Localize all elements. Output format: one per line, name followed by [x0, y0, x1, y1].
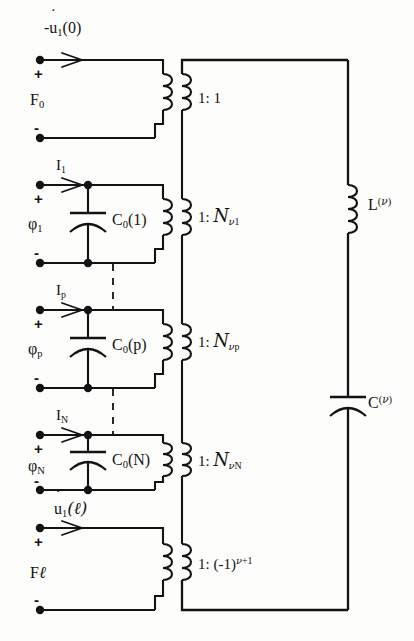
- port-section-phip: [36, 303, 172, 392]
- polarity-minus-phi1: -: [34, 245, 39, 260]
- inductor-coil: [182, 544, 191, 580]
- box-bottom-wire: [182, 580, 348, 610]
- port-label-phip: φp: [28, 341, 43, 360]
- port-section-phi1: [36, 178, 172, 267]
- turns-ratio-2: 1: Nν1: [198, 208, 240, 227]
- coil-lead: [155, 528, 163, 544]
- coil-lead: [155, 110, 163, 138]
- polarity-minus-f0: -: [34, 120, 39, 135]
- polarity-minus-fl: -: [34, 592, 39, 607]
- current-label-i1: I1: [56, 158, 66, 175]
- polarity-plus-phiN: +: [34, 441, 43, 456]
- inductor-coil: [163, 324, 172, 360]
- coil-lead: [155, 310, 163, 324]
- inductor-coil: [348, 185, 357, 233]
- inductor-coil: [182, 199, 191, 235]
- polarity-plus-phi1: +: [34, 191, 43, 206]
- polarity-plus-fl: +: [34, 534, 43, 549]
- inductor-label-L: L(ν): [368, 196, 391, 213]
- capacitor-label-C: C(ν): [368, 394, 392, 411]
- inductor-coil: [163, 74, 172, 110]
- turns-ratio-1: 1: 1: [198, 91, 221, 106]
- port-label-fl: Fℓ: [30, 564, 46, 581]
- inductor-coil: [182, 74, 191, 110]
- box-corner-tl: [182, 60, 188, 74]
- capacitor-label-c0-N: C0(N): [112, 452, 150, 471]
- coil-lead: [155, 435, 163, 443]
- right-series-branch: [330, 60, 366, 610]
- port-section-phiN: [36, 428, 172, 494]
- polarity-plus-f0: +: [34, 66, 43, 81]
- inductor-coil: [163, 199, 172, 235]
- flow-label-u1-ell: u1(ℓ): [54, 500, 87, 520]
- port-label-f0: F0: [30, 92, 44, 111]
- capacitor-label-c0-1: C0(1): [112, 212, 147, 231]
- coil-lead: [155, 185, 163, 199]
- coil-lead: [155, 235, 163, 263]
- circuit-diagram-canvas: -u1(0) + F0 - 1: 1 I1 + φ1 - C0(1) 1: Nν…: [0, 0, 414, 641]
- current-label-iN: IN: [56, 408, 68, 425]
- current-label-ip: Ip: [56, 283, 66, 300]
- coil-lead: [155, 360, 163, 388]
- turns-ratio-5: 1: (-1)ν+1: [198, 556, 252, 572]
- capacitor-label-c0-p: C0(p): [112, 337, 147, 356]
- polarity-minus-phiN: -: [34, 473, 39, 488]
- flow-label-u1-0: -u1(0): [44, 20, 81, 39]
- coil-lead: [155, 476, 163, 490]
- polarity-minus-phip: -: [34, 370, 39, 385]
- turns-ratio-4: 1: NνN: [198, 452, 242, 471]
- port-label-phi1: φ1: [28, 216, 43, 235]
- inductor-coil: [182, 443, 191, 476]
- inductor-coil: [182, 324, 191, 360]
- turns-ratio-3: 1: Nνp: [198, 333, 240, 352]
- port-section-f0: [36, 53, 172, 142]
- polarity-plus-phip: +: [34, 316, 43, 331]
- inductor-coil: [163, 443, 172, 476]
- coil-lead: [155, 580, 163, 610]
- port-section-fl: [36, 521, 172, 614]
- coil-lead: [155, 60, 163, 74]
- inductor-coil: [163, 544, 172, 580]
